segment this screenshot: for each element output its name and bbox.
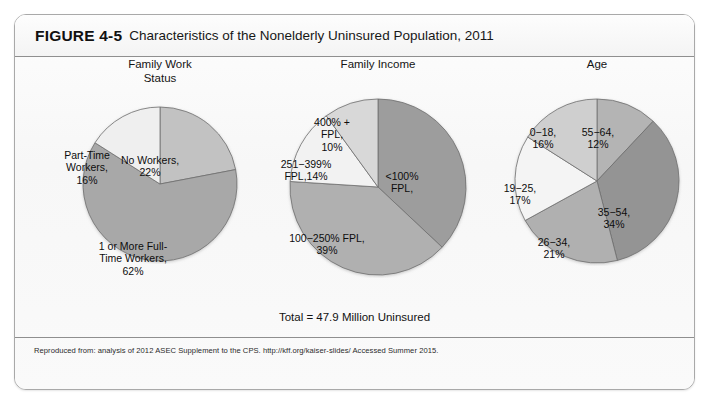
panel-title-family-income: Family Income (263, 58, 493, 72)
charts-area: Family Work Status No Workers, 22%1 or M… (15, 58, 694, 316)
panel-title-family-work-status: Family Work Status (45, 58, 275, 85)
chart-panel-family-income: Family Income <100% FPL,100−250% FPL, 39… (263, 58, 493, 316)
pie-chart-family-work-status (80, 104, 240, 264)
panel-title-age: Age (487, 58, 695, 72)
chart-panel-age: Age 55−64, 12%35−54, 34%26−34, 21%19−25,… (487, 58, 695, 316)
pie-svg (512, 96, 682, 266)
figure-title: Characteristics of the Nonelderly Uninsu… (129, 28, 493, 43)
figure-frame: FIGURE 4-5 Characteristics of the Noneld… (14, 14, 695, 390)
source-note: Reproduced from: analysis of 2012 ASEC S… (34, 346, 680, 355)
total-caption: Total = 47.9 Million Uninsured (15, 311, 694, 323)
chart-panel-family-work-status: Family Work Status No Workers, 22%1 or M… (45, 58, 275, 316)
source-divider (15, 337, 694, 338)
pie-chart-age (512, 96, 682, 266)
figure-number: FIGURE 4-5 (35, 27, 122, 45)
figure-header: FIGURE 4-5 Characteristics of the Noneld… (15, 15, 694, 57)
pie-chart-family-income (287, 96, 469, 278)
pie-svg (287, 96, 469, 278)
pie-svg (80, 104, 240, 264)
